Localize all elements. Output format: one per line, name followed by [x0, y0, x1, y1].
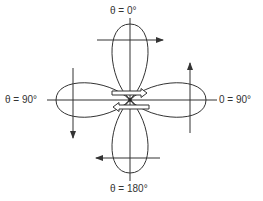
label-theta-0: θ = 0° — [110, 6, 137, 16]
center-point — [128, 98, 132, 102]
label-theta-90-right: 0 = 90° — [219, 95, 251, 105]
label-theta-180: θ = 180° — [110, 184, 148, 194]
center-arrow-left — [113, 103, 149, 112]
label-theta-90-left: θ = 90° — [5, 95, 37, 105]
